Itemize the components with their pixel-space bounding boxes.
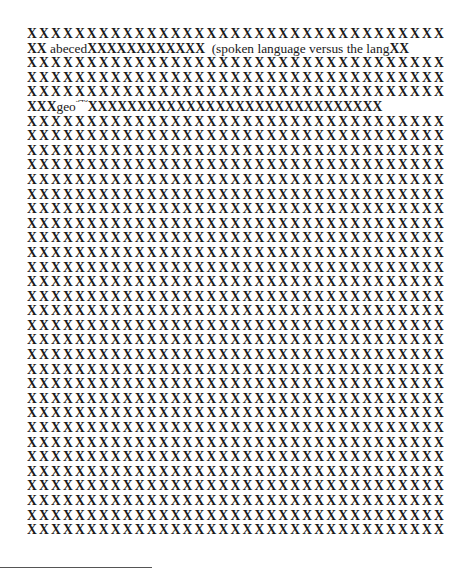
masked-char: X xyxy=(266,27,276,42)
masked-char: X xyxy=(254,202,264,217)
masked-char: X xyxy=(123,144,133,159)
masked-char: X xyxy=(410,450,420,465)
masked-char: X xyxy=(87,202,97,217)
masked-char: X xyxy=(350,421,360,436)
masked-char: X xyxy=(183,71,193,86)
masked-char: X xyxy=(374,436,384,451)
masked-char: X xyxy=(326,173,336,188)
masked-char: X xyxy=(242,217,252,232)
masked-char: X xyxy=(434,246,444,261)
masked-char: X xyxy=(195,202,205,217)
masked-char: X xyxy=(278,479,288,494)
masked-char: X xyxy=(242,523,252,538)
masked-char: X xyxy=(242,406,252,421)
masked-char: X xyxy=(362,509,372,524)
masked-char: X xyxy=(374,304,384,319)
masked-char: X xyxy=(410,71,420,86)
masked-char: X xyxy=(386,246,396,261)
masked-char: X xyxy=(374,115,384,130)
masked-char: X xyxy=(350,56,360,71)
masked-char: X xyxy=(123,406,133,421)
masked-char: X xyxy=(51,436,61,451)
masked-char: X xyxy=(374,319,384,334)
masked-char: X xyxy=(159,421,169,436)
masked-char: X xyxy=(195,261,205,276)
masked-char: X xyxy=(374,333,384,348)
masked-char: X xyxy=(171,494,181,509)
masked-char: X xyxy=(278,290,288,305)
masked-char: X xyxy=(290,465,300,480)
masked-char: X xyxy=(63,421,73,436)
masked-char: X xyxy=(183,465,193,480)
masked-char: X xyxy=(278,261,288,276)
masked-char: X xyxy=(111,27,121,42)
masked-char: X xyxy=(338,85,348,100)
masked-char: X xyxy=(290,436,300,451)
masked-char: X xyxy=(63,115,73,130)
masked-char: X xyxy=(242,509,252,524)
visible-text-fragment: (spoken language versus the lang xyxy=(205,42,389,57)
masked-char: X xyxy=(207,56,217,71)
masked-char: X xyxy=(242,333,252,348)
masked-char: X xyxy=(87,377,97,392)
masked-char: X xyxy=(171,217,181,232)
masked-char: X xyxy=(171,348,181,363)
masked-char: X xyxy=(195,158,205,173)
masked-char: X xyxy=(374,158,384,173)
masked-char: X xyxy=(338,188,348,203)
masked-char: X xyxy=(27,231,37,246)
masked-char: X xyxy=(123,246,133,261)
text-line: XXXXXXXXXXXXXXXXXXXXXXXXXXXXXXXXXXX xyxy=(27,450,444,465)
masked-char: X xyxy=(314,71,324,86)
masked-char: X xyxy=(27,406,37,421)
masked-char: X xyxy=(422,406,432,421)
masked-char: X xyxy=(362,436,372,451)
masked-char: X xyxy=(290,261,300,276)
masked-char: X xyxy=(27,523,37,538)
masked-char: X xyxy=(338,56,348,71)
masked-char: X xyxy=(219,479,229,494)
masked-char: X xyxy=(135,436,145,451)
text-line: XXXXXXXXXXXXXXXXXXXXXXXXXXXXXXXXXXX xyxy=(27,406,444,421)
masked-char: X xyxy=(219,465,229,480)
masked-char: X xyxy=(51,261,61,276)
masked-char: X xyxy=(314,144,324,159)
masked-char: X xyxy=(314,56,324,71)
masked-char: X xyxy=(434,304,444,319)
masked-char: X xyxy=(386,406,396,421)
masked-char: X xyxy=(230,436,240,451)
masked-char: X xyxy=(302,129,312,144)
masked-char: X xyxy=(207,144,217,159)
masked-char: X xyxy=(27,494,37,509)
masked-char: X xyxy=(159,71,169,86)
masked-char: X xyxy=(195,144,205,159)
masked-char: X xyxy=(159,275,169,290)
masked-char: X xyxy=(398,304,408,319)
masked-char: X xyxy=(195,523,205,538)
masked-char: X xyxy=(254,509,264,524)
masked-char: X xyxy=(434,319,444,334)
masked-char: X xyxy=(111,450,121,465)
masked-char: X xyxy=(302,115,312,130)
visible-text-fragment: geo xyxy=(56,100,75,115)
masked-char: X xyxy=(434,71,444,86)
masked-char: X xyxy=(171,406,181,421)
masked-char: X xyxy=(99,494,109,509)
masked-char: X xyxy=(171,158,181,173)
masked-char: X xyxy=(338,319,348,334)
masked-char: X xyxy=(171,304,181,319)
masked-char: X xyxy=(422,348,432,363)
masked-char: X xyxy=(230,421,240,436)
masked-char: X xyxy=(51,71,61,86)
masked-char: X xyxy=(230,188,240,203)
masked-char: X xyxy=(135,348,145,363)
masked-char: X xyxy=(111,509,121,524)
masked-char: X xyxy=(159,217,169,232)
masked-char: X xyxy=(207,377,217,392)
masked-char: X xyxy=(135,144,145,159)
masked-char: X xyxy=(242,246,252,261)
masked-char: X xyxy=(99,231,109,246)
masked-char: X xyxy=(147,509,157,524)
masked-char: X xyxy=(254,290,264,305)
masked-char: X xyxy=(87,85,97,100)
